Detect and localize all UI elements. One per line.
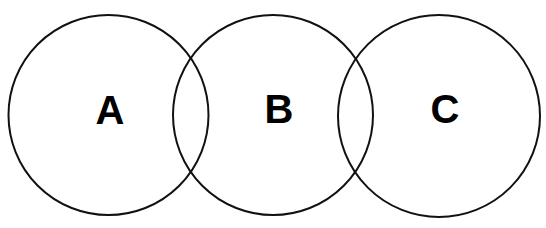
label-b: B (265, 87, 294, 131)
label-c: C (431, 87, 460, 131)
venn-diagram: A B C (0, 0, 546, 228)
label-a: A (96, 88, 125, 132)
